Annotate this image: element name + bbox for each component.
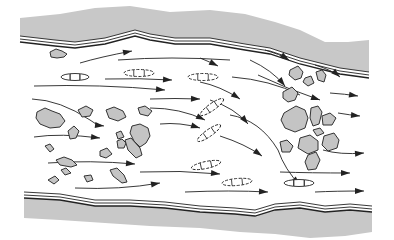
boat-icon [124,70,154,77]
boat-icon [61,74,89,81]
river-diagram [0,0,394,240]
boat-icon [188,74,218,81]
boat-icon [284,180,314,187]
